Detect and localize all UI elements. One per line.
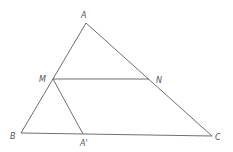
segment-ab [21, 23, 86, 133]
label-c: C [215, 133, 221, 142]
segment-bc [21, 133, 212, 136]
label-b: B [10, 132, 16, 141]
label-n: N [156, 76, 162, 85]
triangle-diagram: A M N B A' C [0, 0, 233, 152]
label-a-prime: A' [79, 139, 88, 148]
label-m: M [39, 75, 46, 84]
segment-ac [86, 23, 212, 136]
segment-ma1 [53, 79, 83, 134]
label-a: A [80, 11, 86, 20]
